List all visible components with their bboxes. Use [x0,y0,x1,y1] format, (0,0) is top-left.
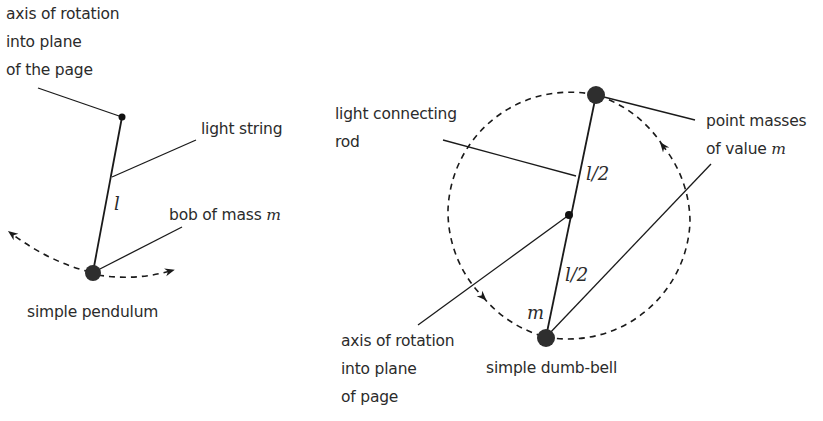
string-leader-line [112,140,196,177]
pendulum-bob-icon [85,265,101,281]
lower-half-length-symbol: l/2 [565,264,588,285]
dumbbell-mass-symbol: m [527,302,544,323]
point-masses-label-text: of value [706,140,771,158]
rod-label-line-1: light connecting [335,102,457,126]
bob-label-text: bob of mass [169,206,266,224]
pendulum-length-symbol: l [114,193,120,214]
rod-label: light connecting rod [335,102,457,154]
pendulum-axis-label: axis of rotation into plane of the page [6,2,119,82]
swing-arc-right [98,271,170,277]
axis-leader-line [38,88,122,117]
point-mass-bottom-icon [537,329,555,347]
rotation-path-right [546,146,690,339]
dumbbell-axis-label: axis of rotation into plane of page [341,329,454,409]
pendulum-axis-label-line-3: of the page [6,58,119,82]
pendulum-axis-label-line-1: axis of rotation [6,2,119,26]
simple-dumbbell [418,86,711,347]
dumbbell-caption: simple dumb-bell [486,356,617,380]
pendulum-axis-label-line-2: into plane [6,30,119,54]
point-masses-var: m [771,140,786,158]
pivot-point-icon [119,114,126,121]
point-masses-label-line-1: point masses [706,109,806,133]
upper-half-length-symbol: l/2 [586,163,609,184]
dumbbell-axis-label-line-1: axis of rotation [341,329,454,353]
bob-leader-line [96,227,182,271]
bob-mass-var: m [266,206,281,224]
point-masses-label: point masses of value m [706,109,806,161]
point-masses-label-line-2: of value m [706,137,806,161]
point-mass-top-icon [587,86,605,104]
light-string-label: light string [201,117,282,141]
rod-leader-line [443,140,576,176]
masses-leader-line-bottom [548,164,711,335]
pendulum-caption: simple pendulum [27,300,158,324]
bob-label: bob of mass m [169,203,281,227]
rotation-axis-point-icon [565,211,573,219]
simple-pendulum [12,88,196,281]
dumbbell-axis-label-line-3: of page [341,385,454,409]
masses-leader-line-top [596,95,695,120]
swing-arc-left [12,234,90,272]
dumbbell-axis-label-line-2: into plane [341,357,454,381]
rod-label-line-2: rod [335,130,457,154]
rotation-path-top [596,95,663,146]
